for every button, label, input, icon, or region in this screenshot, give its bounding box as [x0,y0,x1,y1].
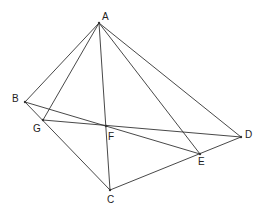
point-f [105,125,107,127]
segment-ad [99,23,241,137]
segment-cd [110,137,241,190]
point-label-c: C [107,194,114,205]
segment-ae [99,23,200,154]
point-label-a: A [102,11,109,22]
labels-group: ABGFDEC [12,11,252,205]
diagram-svg: ABGFDEC [0,0,264,211]
point-label-g: G [33,123,41,134]
point-a [98,22,100,24]
segment-ab [25,23,99,102]
point-label-e: E [198,156,205,167]
segments-group [25,23,241,190]
point-e [199,153,201,155]
segment-be [25,102,200,154]
point-c [109,189,111,191]
segment-gd [43,120,241,137]
point-b [24,101,26,103]
points-group [24,22,242,191]
point-d [240,136,242,138]
segment-bc [25,102,110,190]
segment-ac [99,23,110,190]
point-label-b: B [12,93,19,104]
point-label-d: D [245,129,252,140]
point-label-f: F [108,131,114,142]
point-g [42,119,44,121]
segment-ag [43,23,99,120]
geometry-diagram: ABGFDEC [0,0,264,211]
